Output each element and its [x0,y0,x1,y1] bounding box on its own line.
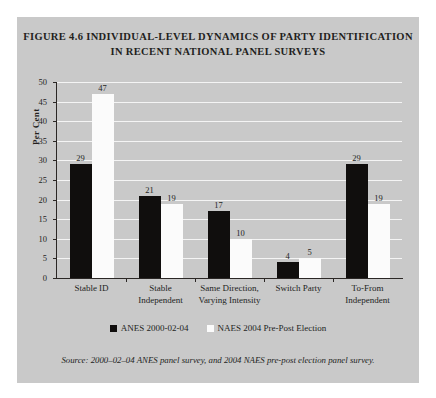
legend-item: NAES 2004 Pre-Post Election [207,323,327,333]
x-axis-category-label-line: Varying Intensity [189,295,270,307]
bar: 29 [346,164,368,278]
y-axis-tick-label: 0 [43,273,47,283]
x-axis-tick [126,278,127,282]
bar-value-label: 29 [352,153,361,163]
bar-value-label: 17 [214,200,223,210]
legend-swatch-icon [207,325,214,332]
chart-legend: ANES 2000-02-04NAES 2004 Pre-Post Electi… [17,323,419,333]
bar-value-label: 5 [307,247,311,257]
bar-value-label: 47 [98,83,107,93]
y-axis-tick-label: 50 [39,77,48,87]
bar: 21 [139,196,161,278]
figure-title: FIGURE 4.6 INDIVIDUAL-LEVEL DYNAMICS OF … [17,29,419,59]
y-axis-tick [53,219,57,220]
legend-item: ANES 2000-02-04 [110,323,189,333]
x-axis-tick [264,278,265,282]
plot-frame: 294721191710452919 05101520253035404550 [57,82,402,278]
bar-value-label: 10 [236,228,245,238]
bar: 5 [299,258,321,278]
bar-value-label: 21 [145,185,154,195]
figure-title-line-2: IN RECENT NATIONAL PANEL SURVEYS [17,44,419,59]
bar: 29 [70,164,92,278]
y-axis-tick [53,258,57,259]
y-axis-tick-label: 10 [39,234,48,244]
y-axis-tick-label: 45 [39,97,48,107]
y-axis-tick [53,239,57,240]
bar-value-label: 29 [76,153,85,163]
y-axis-tick-label: 5 [43,253,47,263]
bar: 19 [161,204,183,278]
y-axis-tick [53,82,57,83]
bar: 47 [92,94,114,278]
bar: 17 [208,211,230,278]
plot-area: 294721191710452919 [57,82,402,278]
bar: 10 [230,239,252,278]
y-axis-tick-label: 40 [39,116,48,126]
figure-panel: FIGURE 4.6 INDIVIDUAL-LEVEL DYNAMICS OF … [17,17,419,383]
y-axis-tick [53,200,57,201]
x-axis-category-label: To-FromIndependent [327,283,408,306]
legend-swatch-icon [110,325,117,332]
y-axis-tick [53,121,57,122]
x-axis-line [56,278,403,279]
source-note: Source: 2000–02–04 ANES panel survey, an… [17,355,419,365]
y-axis-tick [53,102,57,103]
legend-label: ANES 2000-02-04 [121,323,189,333]
x-axis-category-label-line: Independent [327,295,408,307]
y-axis-tick [53,180,57,181]
bar-value-label: 4 [285,251,289,261]
figure-title-line-1: FIGURE 4.6 INDIVIDUAL-LEVEL DYNAMICS OF … [17,29,419,44]
y-axis-tick [53,141,57,142]
y-axis-tick-label: 25 [39,175,48,185]
x-axis-category-label-line: To-From [327,283,408,295]
x-axis-tick [195,278,196,282]
x-axis-tick [333,278,334,282]
y-axis-tick-label: 15 [39,214,48,224]
bar: 19 [368,204,390,278]
gridline [57,82,402,83]
y-axis-tick-label: 20 [39,195,48,205]
y-axis-tick-label: 35 [39,136,48,146]
y-axis-tick-label: 30 [39,155,48,165]
bar-value-label: 19 [167,193,176,203]
bar: 4 [277,262,299,278]
y-axis-tick [53,278,57,279]
legend-label: NAES 2004 Pre-Post Election [218,323,327,333]
bar-value-label: 19 [374,193,383,203]
y-axis-tick [53,160,57,161]
